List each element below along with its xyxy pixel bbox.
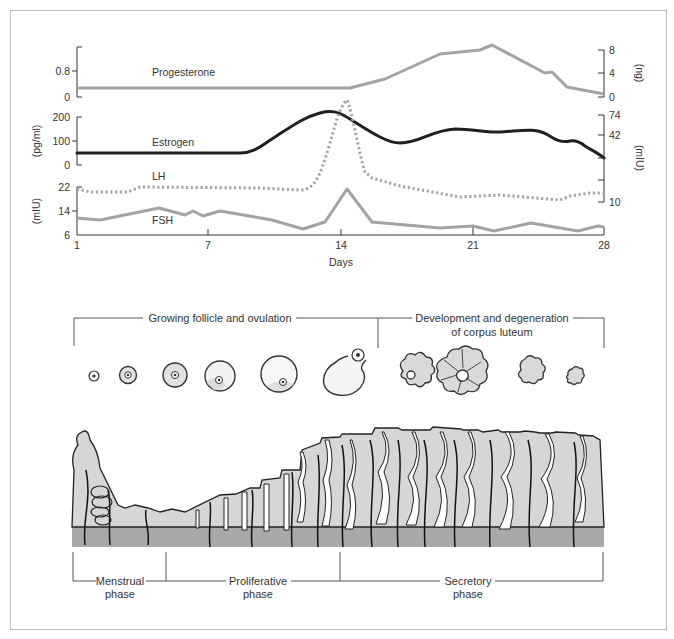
menstrual-cycle-figure: 0.8 0 8 4 0 (ng) Progesterone 200 100 0 …: [0, 0, 674, 639]
corpus-label-line2: of corpus luteum: [451, 326, 532, 338]
tick-day-21: 21: [467, 239, 479, 251]
phase-brackets: [73, 552, 603, 581]
estrogen-left-axis: [72, 117, 82, 165]
proliferative-phase-line2: phase: [243, 588, 273, 600]
ovary-section: Growing follicle and ovulation Developme…: [74, 312, 604, 395]
follicle-primordial: [89, 371, 99, 381]
tick-ng-8: 8: [609, 44, 615, 56]
tick-estrogen-0: 0: [64, 159, 70, 171]
follicle-graafian: [261, 356, 297, 392]
tick-miu-10: 10: [609, 196, 621, 208]
tick-miu-42: 42: [609, 129, 621, 141]
endometrium-section: [72, 427, 604, 547]
corpus-albicans: [567, 367, 585, 385]
tick-prog-0: 0: [64, 91, 70, 103]
follicle-ovulation: [324, 349, 367, 395]
estrogen-label: Estrogen: [152, 136, 194, 148]
menstrual-phase-line2: phase: [105, 588, 135, 600]
tick-day-14: 14: [335, 239, 347, 251]
days-axis-label: Days: [329, 256, 353, 268]
lh-label: LH: [152, 170, 165, 182]
tick-ng-0: 0: [609, 91, 615, 103]
corpus-luteum-stages: [400, 346, 584, 395]
tick-gonad-6: 6: [64, 229, 70, 241]
follicle-stages: [89, 349, 366, 395]
follicle-label: Growing follicle and ovulation: [148, 312, 291, 324]
tick-ng-4: 4: [609, 67, 615, 79]
miu-right-unit-label: (mIU): [634, 145, 646, 171]
progesterone-right-axis: [598, 50, 604, 97]
tick-day-28: 28: [598, 239, 610, 251]
tick-day-7: 7: [205, 239, 211, 251]
basal-layer: [72, 527, 604, 547]
corpus-luteum-early: [400, 352, 434, 386]
corpus-luteum-mature: [437, 346, 488, 395]
tick-estrogen-100: 100: [52, 135, 70, 147]
follicle-primary: [120, 367, 137, 384]
fsh-label: FSH: [152, 214, 173, 226]
tick-miu-74: 74: [609, 109, 621, 121]
secretory-phase-line1: Secretory: [444, 575, 492, 587]
menstrual-phase-line1: Menstrual: [96, 575, 144, 587]
ng-unit-label: (ng): [634, 64, 646, 83]
miu-left-unit-label: (mIU): [30, 198, 42, 224]
tick-day-1: 1: [74, 239, 80, 251]
functional-layer: [72, 427, 604, 527]
hormone-chart: 0.8 0 8 4 0 (ng) Progesterone 200 100 0 …: [30, 44, 646, 268]
lh-right-axis: [598, 115, 604, 202]
secretory-phase-line2: phase: [453, 588, 483, 600]
tick-gonad-22: 22: [58, 181, 70, 193]
estrogen-line: [77, 112, 604, 158]
follicle-early-antral: [205, 361, 235, 391]
progesterone-label: Progesterone: [152, 66, 215, 78]
corpus-label-line1: Development and degeneration: [415, 312, 569, 324]
corpus-luteum-regressing: [519, 356, 546, 384]
proliferative-phase-line1: Proliferative: [229, 575, 287, 587]
tick-gonad-14: 14: [58, 205, 70, 217]
tick-prog-0.8: 0.8: [55, 65, 70, 77]
gonadotropin-left-axis: [72, 187, 604, 235]
follicle-secondary: [163, 363, 187, 387]
tick-estrogen-200: 200: [52, 111, 70, 123]
pg-ml-unit-label: (pg/ml): [30, 125, 42, 158]
